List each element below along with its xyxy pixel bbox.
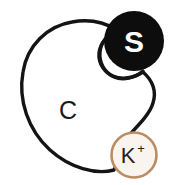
ion-k-charge-label: + (137, 141, 145, 156)
sphere-s-label: S (124, 25, 144, 58)
c-body-label: C (59, 96, 77, 124)
diagram-canvas: S K + C (0, 0, 177, 185)
molecule-schematic-svg: S K + C (0, 0, 177, 185)
ion-k-label: K (121, 143, 136, 168)
